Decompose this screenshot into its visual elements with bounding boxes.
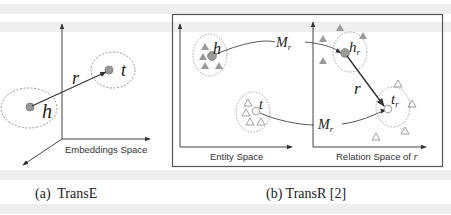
relation-vector-r — [347, 56, 384, 106]
relation-vector — [32, 72, 106, 106]
caption-transe: (a) TransE — [35, 186, 97, 202]
projection-label-bottom: Mr — [317, 117, 334, 134]
projected-tail-cluster: tr — [372, 80, 416, 140]
projected-tail-label: tr — [391, 91, 399, 109]
tail-node — [105, 66, 113, 74]
figure-diagram: h t r Embeddings Space Entity Space Rela… — [0, 0, 451, 215]
tail-cluster-entity: t — [236, 92, 270, 132]
embeddings-space-label: Embeddings Space — [65, 144, 147, 155]
projected-head-label: hr — [349, 39, 361, 57]
panel-a-transe: h t r Embeddings Space — [1, 24, 150, 165]
relation-label: r — [72, 68, 80, 88]
tail-label-entity: t — [259, 97, 264, 112]
projected-head-cluster: hr — [319, 24, 367, 72]
entity-space-label: Entity Space — [210, 151, 263, 162]
head-label: h — [42, 100, 52, 122]
projection-label-top: Mr — [275, 35, 292, 52]
head-cluster-entity: h — [193, 34, 227, 76]
caption-transr: (b) TransR [2] — [266, 186, 346, 202]
tail-label: t — [121, 60, 127, 80]
relation-space-label: Relation Space of r — [336, 151, 418, 162]
head-label-entity: h — [213, 40, 221, 57]
relation-label-r: r — [354, 79, 361, 98]
panel-b-transr: Entity Space Relation Space of r h t — [173, 15, 443, 167]
head-node — [26, 103, 34, 111]
